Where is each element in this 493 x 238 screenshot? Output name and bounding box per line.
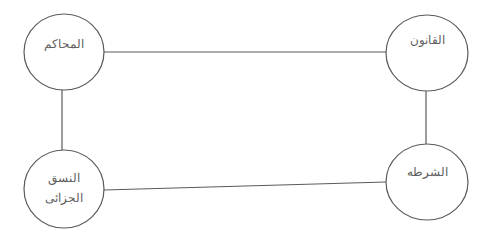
node-circle: [24, 14, 104, 90]
node-police: الشرطه: [386, 144, 468, 220]
node-circle: [386, 15, 468, 91]
node-label: الشرطه: [407, 165, 448, 179]
node-law: القانون: [386, 15, 468, 91]
edge-criminal-system-police: [104, 182, 386, 190]
node-label: الجزائى: [45, 191, 83, 205]
node-criminal-system: النسقالجزائى: [24, 150, 104, 228]
edges-group: [62, 52, 426, 190]
node-label: المحاكم: [44, 37, 84, 51]
diagram-canvas: المحاكمالقانونالنسقالجزائىالشرطه: [0, 0, 493, 238]
node-label: النسق: [48, 171, 80, 185]
node-circle: [386, 144, 468, 220]
node-courts: المحاكم: [24, 14, 104, 90]
nodes-group: المحاكمالقانونالنسقالجزائىالشرطه: [24, 14, 468, 228]
node-circle: [24, 150, 104, 228]
node-label: القانون: [410, 33, 445, 47]
